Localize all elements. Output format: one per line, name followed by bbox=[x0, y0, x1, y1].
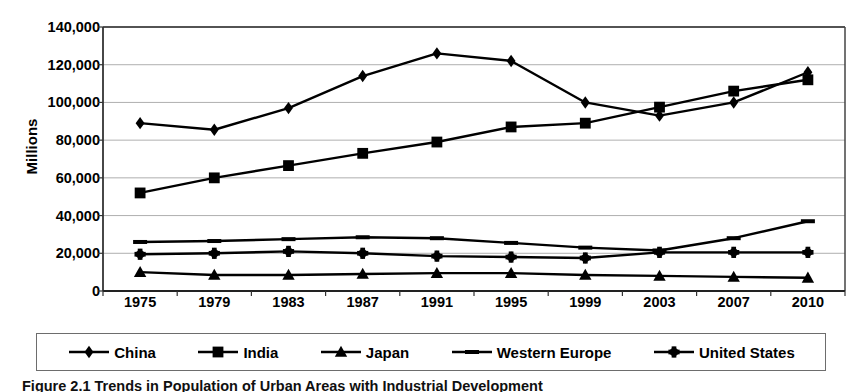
chart-svg bbox=[0, 6, 861, 324]
legend-item-united-states[interactable]: United States bbox=[652, 343, 795, 361]
triangle-marker-icon bbox=[319, 343, 363, 361]
x-tick-label: 1987 bbox=[347, 294, 379, 310]
legend-item-india[interactable]: India bbox=[196, 343, 278, 361]
dash-marker-icon bbox=[450, 343, 494, 361]
star-marker-icon bbox=[652, 343, 696, 361]
figure-caption: Figure 2.1 Trends in Population of Urban… bbox=[22, 379, 842, 392]
diamond-marker-icon bbox=[67, 343, 111, 361]
chart-legend: ChinaIndiaJapanWestern EuropeUnited Stat… bbox=[36, 333, 826, 371]
legend-item-western-europe[interactable]: Western Europe bbox=[450, 343, 612, 361]
x-tick-label: 2007 bbox=[718, 294, 750, 310]
legend-label: China bbox=[114, 345, 156, 360]
legend-label: Japan bbox=[366, 345, 409, 360]
legend-label: United States bbox=[699, 345, 795, 360]
x-tick-label: 2010 bbox=[792, 294, 824, 310]
x-tick-label: 1991 bbox=[421, 294, 453, 310]
x-tick-label: 1999 bbox=[569, 294, 601, 310]
chart-plot-area: Millions 140,000120,000100,00080,00060,0… bbox=[0, 6, 861, 324]
x-axis-tick-labels: 1975197919831987199119951999200320072010 bbox=[0, 294, 861, 318]
x-tick-label: 1979 bbox=[198, 294, 230, 310]
figure-container: Millions 140,000120,000100,00080,00060,0… bbox=[0, 0, 861, 392]
square-marker-icon bbox=[196, 343, 240, 361]
legend-label: India bbox=[243, 345, 278, 360]
x-tick-label: 1975 bbox=[124, 294, 156, 310]
legend-item-china[interactable]: China bbox=[67, 343, 156, 361]
x-tick-label: 1995 bbox=[495, 294, 527, 310]
x-tick-label: 2003 bbox=[643, 294, 675, 310]
x-tick-label: 1983 bbox=[272, 294, 304, 310]
legend-item-japan[interactable]: Japan bbox=[319, 343, 409, 361]
legend-label: Western Europe bbox=[497, 345, 612, 360]
